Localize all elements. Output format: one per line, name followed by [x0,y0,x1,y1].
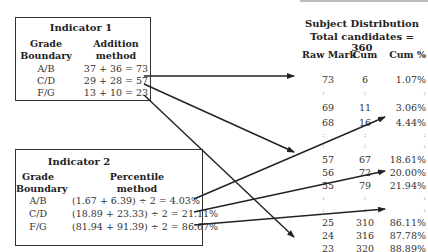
raw-mark-cell: 68 [322,117,342,128]
raw-mark-cell: : [322,193,342,202]
cum-cell: 316 [345,230,385,241]
cum-cell: : [345,193,385,202]
raw-mark-cell: 73 [322,74,342,85]
grade-fg: F/G [16,87,76,98]
cum-pct-cell: 21.94% [385,180,426,191]
cum-cell: 72 [345,167,385,178]
grade-cd: C/D [16,75,76,86]
raw-mark-cell: 69 [322,102,342,113]
cum-pct-cell: 20.00% [385,167,426,178]
cum-pct-cell: 4.44% [385,117,426,128]
top-rule [300,0,428,2]
cum-cell: 16 [345,117,385,128]
raw-mark-cell: 25 [322,217,342,228]
method-ab: 37 + 36 = 73 [82,63,150,74]
cum-pct-cell: : [385,205,426,214]
raw-mark-cell: 55 [322,180,342,191]
cum-pct-cell: 88.89% [385,243,426,252]
cum-cell: : [345,205,385,214]
method-ab: (1.67 + 6.39) ÷ 2 = 4.03% [72,195,197,206]
cum-pct-cell: 86.11% [385,217,426,228]
grade-header-line2: Boundary [16,50,76,61]
method-cd: (18.89 + 23.33) ÷ 2 = 21.11% [72,208,197,219]
grade-header-line2: Boundary [16,183,60,194]
cum-pct-cell: 1.07% [385,74,426,85]
cum-cell: 79 [345,180,385,191]
raw-mark-cell: : [322,205,342,214]
grade-fg: F/G [16,221,60,232]
cum-pct-cell: : [385,88,426,97]
method-header-line1: Percentile [72,171,202,182]
grade-ab: A/B [16,63,76,74]
raw-mark-cell: : [322,141,342,150]
distribution-title: Subject Distribution [300,18,424,29]
indicator-1-box: Indicator 1 Grade Boundary Addition meth… [15,17,151,101]
method-header-line2: method [82,50,150,61]
cum-pct-cell: 87.78% [385,230,426,241]
cum-cell: 6 [345,74,385,85]
method-cd: 29 + 28 = 57 [82,75,150,86]
arrow [144,84,294,152]
method-header-line2: method [72,183,202,194]
method-fg: 13 + 10 = 23 [82,87,150,98]
grade-header-line1: Grade [16,38,76,49]
cum-pct-cell: : [385,193,426,202]
grade-header-line1: Grade [16,171,60,182]
raw-mark-cell: 23 [322,243,342,252]
cum-cell: 310 [345,217,385,228]
indicator-2-box: Indicator 2 Grade Boundary Percentile me… [15,149,203,246]
cum-pct-cell: 18.61% [385,154,426,165]
raw-mark-cell: 24 [322,230,342,241]
cum-cell: 11 [345,102,385,113]
cum-cell: : [345,141,385,150]
cum-header: Cum [345,49,385,60]
raw-mark-cell: : [322,130,342,139]
indicator-1-title: Indicator 1 [12,22,150,33]
cum-pct-header: Cum % [385,49,426,60]
method-fg: (81.94 + 91.39) ÷ 2 = 86.67% [72,221,197,232]
raw-mark-cell: 57 [322,154,342,165]
cum-pct-cell: : [385,141,426,150]
cum-pct-cell: 3.06% [385,102,426,113]
cum-pct-cell: : [385,130,426,139]
grade-ab: A/B [16,195,60,206]
cum-cell: : [345,130,385,139]
cum-cell: 67 [345,154,385,165]
indicator-2-title: Indicator 2 [0,156,202,167]
raw-mark-cell: : [322,88,342,97]
raw-mark-cell: 56 [322,167,342,178]
method-header-line1: Addition [82,38,150,49]
cum-cell: : [345,88,385,97]
cum-cell: 320 [345,243,385,252]
grade-cd: C/D [16,208,60,219]
